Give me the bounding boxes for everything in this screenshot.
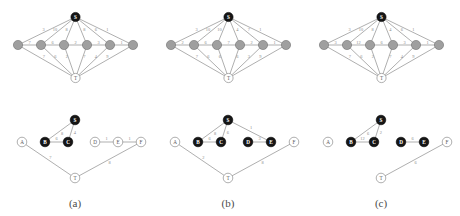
edge-weight-label: 2 xyxy=(202,155,204,160)
edge-weight-label: 6 xyxy=(227,130,230,135)
sink-edge xyxy=(217,45,229,78)
edge-weight-label: 6 xyxy=(51,40,54,45)
edge-weight-label: 7 xyxy=(83,54,86,59)
node-label-s: S xyxy=(380,14,383,20)
node-label-c: C xyxy=(66,139,70,145)
figure-container: 310886176231762749ST8461178SABCDEFT(a)31… xyxy=(0,0,460,216)
panel-caption: (a) xyxy=(69,197,82,210)
panel-c: 3108461312631762749ST621266SABCDEFT(c) xyxy=(319,12,451,210)
graph-node-d[interactable] xyxy=(235,40,244,49)
node-label-b: B xyxy=(196,139,200,145)
edge-weight-label: 8 xyxy=(83,27,86,32)
node-label-d: D xyxy=(246,139,250,145)
node-label-s: S xyxy=(227,14,230,20)
edge-weight-label: 3 xyxy=(195,27,198,32)
graph-node-f[interactable] xyxy=(128,40,137,49)
edge-weight-label: 2 xyxy=(380,130,382,135)
edge-weight-label: 7 xyxy=(49,155,52,160)
edge-weight-label: 8 xyxy=(214,131,217,136)
graph-node-b[interactable] xyxy=(189,40,198,49)
sink-edge xyxy=(76,45,88,78)
sink-edge xyxy=(76,45,134,78)
edge-weight-label: 7 xyxy=(349,54,352,59)
edge-weight-label: 1 xyxy=(259,27,261,32)
sink-edge xyxy=(64,45,76,78)
sink-edge xyxy=(229,45,241,78)
graph-node-a[interactable] xyxy=(13,40,22,49)
graph-node-d[interactable] xyxy=(82,40,91,49)
edge-weight-label: 2 xyxy=(181,40,183,45)
edge-weight-label: 9 xyxy=(106,54,109,59)
graph-node-f[interactable] xyxy=(281,40,290,49)
graph-edge xyxy=(175,142,228,178)
bottom-graph: 621266SABCDEFT xyxy=(323,115,452,183)
graph-node-c[interactable] xyxy=(59,40,68,49)
edge-weight-label: 1 xyxy=(273,40,275,45)
graph-figure-svg: 310886176231762749ST8461178SABCDEFT(a)31… xyxy=(0,0,460,216)
node-label-a: A xyxy=(20,139,24,145)
node-label-c: C xyxy=(372,139,376,145)
edge-weight-label: 6 xyxy=(207,54,210,59)
edge-weight-label: 6 xyxy=(204,40,207,45)
edge-weight-label: 3 xyxy=(403,40,406,45)
edge-weight-label: 4 xyxy=(389,27,392,32)
edge-weight-label: 6 xyxy=(236,54,239,59)
edge-weight-label: 6 xyxy=(367,131,370,136)
node-label-s: S xyxy=(227,117,230,123)
edge-weight-label: 2 xyxy=(372,54,374,59)
graph-node-b[interactable] xyxy=(36,40,45,49)
graph-node-e[interactable] xyxy=(105,40,114,49)
edge-weight-label: 9 xyxy=(412,54,415,59)
edge-weight-label: 7 xyxy=(28,40,31,45)
graph-edge xyxy=(22,142,75,178)
graph-node-c[interactable] xyxy=(212,40,221,49)
node-label-e: E xyxy=(422,139,426,145)
node-label-d: D xyxy=(399,139,403,145)
edge-weight-label: 8 xyxy=(371,27,374,32)
panel-b: 3101047126721766639ST8616328SABCDEFT(b) xyxy=(166,12,298,210)
node-label-s: S xyxy=(74,14,77,20)
graph-node-e[interactable] xyxy=(411,40,420,49)
node-label-b: B xyxy=(43,139,47,145)
edge-weight-label: 1 xyxy=(128,136,130,141)
sink-edge xyxy=(382,45,394,78)
top-graph: 3108461312631762749ST xyxy=(319,12,443,82)
edge-weight-label: 1 xyxy=(106,27,108,32)
top-graph: 3101047126721766639ST xyxy=(166,12,290,82)
graph-node-d[interactable] xyxy=(388,40,397,49)
node-label-e: E xyxy=(269,139,273,145)
edge-weight-label: 7 xyxy=(389,54,392,59)
edge-weight-label: 3 xyxy=(334,40,337,45)
sink-edge xyxy=(171,45,229,78)
edge-weight-label: 6 xyxy=(380,40,383,45)
graph-node-a[interactable] xyxy=(319,40,328,49)
edge-weight-label: 1 xyxy=(105,136,107,141)
graph-node-f[interactable] xyxy=(434,40,443,49)
panel-caption: (b) xyxy=(222,197,235,210)
edge-weight-label: 10 xyxy=(206,27,211,32)
edge-weight-label: 12 xyxy=(356,40,360,45)
panel-caption: (c) xyxy=(375,197,388,210)
edge-weight-label: 4 xyxy=(236,27,239,32)
edge-weight-label: 2 xyxy=(66,54,68,59)
node-label-a: A xyxy=(173,139,177,145)
edge-weight-label: 9 xyxy=(259,54,262,59)
edge-weight-label: 3 xyxy=(348,27,351,32)
graph-node-e[interactable] xyxy=(258,40,267,49)
node-label-e: E xyxy=(116,139,119,145)
node-label-f: F xyxy=(140,139,143,145)
edge-weight-label: 3 xyxy=(97,40,100,45)
bottom-graph: 8461178SABCDEFT xyxy=(17,115,146,183)
sink-edge xyxy=(229,45,287,78)
graph-node-a[interactable] xyxy=(166,40,175,49)
sink-edge xyxy=(324,45,382,78)
graph-node-b[interactable] xyxy=(342,40,351,49)
bottom-graph: 8616328SABCDEFT xyxy=(170,115,299,183)
edge-weight-label: 8 xyxy=(262,160,265,165)
edge-weight-label: 4 xyxy=(95,54,98,59)
node-label-f: F xyxy=(293,139,296,145)
edge-weight-label: 2 xyxy=(250,40,252,45)
graph-node-c[interactable] xyxy=(365,40,374,49)
sink-edge xyxy=(382,45,440,78)
edge-weight-label: 8 xyxy=(65,27,68,32)
